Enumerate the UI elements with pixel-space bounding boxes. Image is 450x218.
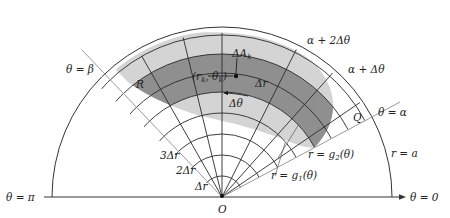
axis-arrow-icon [399, 194, 406, 200]
polar-diagram: θ = β θ = π θ = 0 θ = α α + Δθ α + 2Δθ R… [0, 0, 450, 218]
label-delta-theta: Δθ [228, 97, 244, 109]
label-q: Q [353, 111, 362, 124]
label-theta-zero: θ = 0 [410, 191, 439, 203]
diagram-canvas: θ = β θ = π θ = 0 θ = α α + Δθ α + 2Δθ R… [0, 0, 450, 218]
label-ring-1: Δr [194, 180, 209, 192]
label-theta-alpha: θ = α [378, 106, 407, 118]
label-r-g2: r = g2(θ) [308, 148, 354, 162]
origin-point [220, 194, 224, 198]
label-r-g1: r = g1(θ) [271, 169, 317, 183]
sample-point [234, 74, 238, 78]
label-origin: O [218, 203, 227, 215]
label-ring-2: 2Δr [175, 164, 196, 176]
label-region-r: R [135, 78, 144, 90]
label-theta-pi: θ = π [6, 191, 36, 203]
label-alpha-plus-dtheta: α + Δθ [348, 63, 385, 75]
label-r-equals-a: r = a [391, 147, 418, 159]
label-alpha-plus-2dtheta: α + 2Δθ [307, 34, 351, 46]
label-theta-beta: θ = β [66, 63, 94, 75]
label-ring-3: 3Δr [160, 149, 180, 161]
label-delta-r: Δr [254, 77, 269, 89]
